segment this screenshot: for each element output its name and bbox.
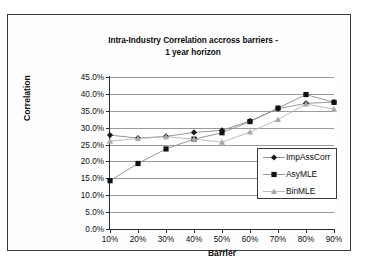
series-binmle	[107, 101, 337, 145]
chart-legend: ImpAssCorrAsyMLEBinMLE	[257, 148, 337, 199]
data-point	[247, 129, 253, 135]
x-axis-tick-label: 60%	[242, 235, 258, 244]
legend-item-binmle[interactable]: BinMLE	[258, 183, 336, 200]
data-point	[219, 130, 224, 135]
series-line	[110, 104, 334, 142]
legend-label: BinMLE	[286, 183, 315, 200]
x-axis-tick-label: 80%	[298, 235, 314, 244]
data-point	[107, 178, 112, 183]
y-axis-tick-label: 10.0%	[81, 191, 104, 200]
data-point	[191, 129, 197, 135]
legend-item-asymle[interactable]: AsyMLE	[258, 166, 336, 183]
x-axis-tick-label: 20%	[130, 235, 146, 244]
y-axis-tick-label: 5.0%	[85, 208, 104, 217]
y-axis-tick-labels: 0.0%5.0%10.0%15.0%20.0%25.0%30.0%35.0%40…	[36, 77, 104, 229]
x-axis-line	[109, 229, 335, 230]
y-axis-tick-label: 30.0%	[81, 123, 104, 132]
chart-frame: Intra-Industry Correlation accross barri…	[7, 14, 351, 251]
data-point	[247, 119, 252, 124]
y-axis-tick-label: 40.0%	[81, 89, 104, 98]
square-marker-icon	[262, 166, 286, 183]
y-axis-tick-label: 25.0%	[81, 140, 104, 149]
legend-item-impasscorr[interactable]: ImpAssCorr	[258, 149, 336, 166]
y-axis-tick-label: 20.0%	[81, 157, 104, 166]
y-axis-tick-label: 35.0%	[81, 106, 104, 115]
triangle-marker-icon	[262, 183, 286, 200]
x-axis-tick-labels: 10%20%30%40%50%60%70%80%90%	[110, 231, 334, 247]
data-point	[135, 161, 140, 166]
y-axis-tick-label: 45.0%	[81, 73, 104, 82]
legend-label: AsyMLE	[286, 166, 317, 183]
x-axis-title: Barrier	[110, 248, 334, 258]
data-point	[163, 146, 168, 151]
data-point	[303, 92, 308, 97]
data-point	[275, 116, 281, 122]
x-axis-tick-label: 90%	[326, 235, 342, 244]
data-point	[275, 105, 280, 110]
y-axis-tick-label: 15.0%	[81, 174, 104, 183]
x-axis-tick-label: 30%	[158, 235, 174, 244]
x-axis-tick-label: 10%	[102, 235, 118, 244]
x-axis-tick-label: 50%	[214, 235, 230, 244]
x-axis-tick-label: 40%	[186, 235, 202, 244]
y-axis-title: Correlation	[22, 75, 32, 121]
x-axis-tick-label: 70%	[270, 235, 286, 244]
data-point	[107, 132, 113, 138]
chart-title-line2: 1 year horizon	[68, 47, 318, 59]
legend-label: ImpAssCorr	[286, 149, 330, 166]
diamond-marker-icon	[262, 149, 286, 166]
y-axis-tick-label: 0.0%	[85, 225, 104, 234]
data-point	[331, 100, 336, 105]
chart-title: Intra-Industry Correlation accross barri…	[68, 35, 318, 58]
chart-title-line1: Intra-Industry Correlation accross barri…	[68, 35, 318, 47]
